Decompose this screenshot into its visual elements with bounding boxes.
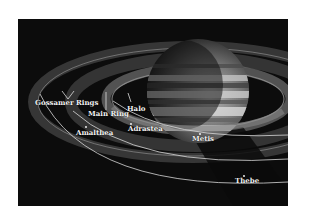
- label-metis: Metis: [192, 135, 214, 142]
- label-amalthea: Amalthea: [76, 129, 113, 136]
- label-main-ring: Main Ring: [88, 110, 129, 117]
- jupiter-ring-diagram: Gossamer Rings Main Ring Halo Amalthea A…: [18, 19, 288, 206]
- label-adrastea: Adrastea: [128, 125, 163, 132]
- label-halo: Halo: [127, 105, 145, 112]
- label-gossamer-rings: Gossamer Rings: [35, 99, 98, 106]
- pointer-halo: [128, 93, 131, 102]
- label-thebe: Thebe: [235, 177, 259, 184]
